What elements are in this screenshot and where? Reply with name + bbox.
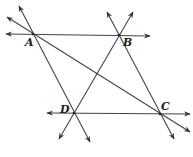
- lines-group: [6, 6, 190, 142]
- point-label-c: C: [161, 100, 170, 113]
- point-label-a: A: [24, 36, 34, 49]
- line-BC: [107, 12, 174, 139]
- point-c-dot: [159, 113, 162, 116]
- line-BD: [59, 12, 133, 139]
- point-label-b: B: [122, 36, 132, 49]
- point-a-dot: [32, 33, 35, 36]
- point-label-d: D: [59, 103, 70, 116]
- line-AD: [19, 6, 90, 142]
- point-d-dot: [73, 112, 76, 115]
- point-b-dot: [118, 34, 121, 37]
- line-AC: [7, 17, 190, 132]
- geometry-diagram: ABCD: [0, 0, 193, 157]
